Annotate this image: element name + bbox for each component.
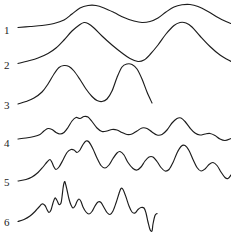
waveform-trace-2 bbox=[18, 22, 231, 63]
trace-label-3: 3 bbox=[4, 99, 10, 111]
waveform-trace-3 bbox=[18, 64, 152, 104]
trace-label-group: 123456 bbox=[4, 24, 10, 228]
waveform-trace-6 bbox=[18, 181, 157, 231]
trace-group bbox=[18, 4, 231, 231]
trace-label-1: 1 bbox=[4, 24, 10, 36]
trace-label-5: 5 bbox=[4, 176, 10, 188]
trace-label-4: 4 bbox=[4, 137, 10, 149]
waveform-trace-5 bbox=[18, 141, 231, 181]
waveform-chart: 123456 bbox=[0, 0, 231, 241]
trace-label-2: 2 bbox=[4, 59, 10, 71]
waveform-figure: 123456 bbox=[0, 0, 231, 241]
waveform-trace-4 bbox=[18, 116, 231, 140]
waveform-trace-1 bbox=[18, 4, 231, 27]
trace-label-6: 6 bbox=[4, 216, 10, 228]
